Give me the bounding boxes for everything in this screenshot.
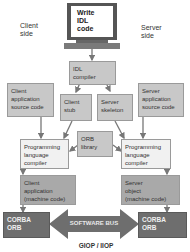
server-corba-orb-box: CORBA ORB: [138, 212, 187, 238]
server-object-box: Server object (machine code): [121, 175, 180, 205]
server-skeleton-box: Server skeleton: [97, 94, 133, 121]
client-stub-box: Client stub: [60, 94, 92, 121]
monitor-text: Write IDL code: [77, 9, 94, 33]
software-bus-label: SOFTWARE BUS: [68, 220, 120, 226]
arrow: [115, 121, 124, 138]
client-corba-orb-box: CORBA ORB: [3, 212, 50, 238]
client-source-box: Client application source code: [7, 83, 54, 117]
arrow: [64, 121, 72, 138]
server-compiler-box: Programming language compiler: [121, 139, 171, 169]
server-source-box: Server application source code: [138, 83, 184, 117]
client-app-box: Client application (machine code): [20, 175, 76, 205]
orb-library-box: ORB library: [77, 131, 113, 157]
giop-iiop-label: GIOP / IIOP: [76, 242, 116, 249]
arrow: [113, 145, 121, 151]
idl-compiler-box: IDL compiler: [69, 61, 116, 85]
client-side-label: Client side: [20, 22, 38, 38]
client-compiler-box: Programming language compiler: [20, 139, 69, 169]
server-side-label: Server side: [141, 24, 162, 40]
